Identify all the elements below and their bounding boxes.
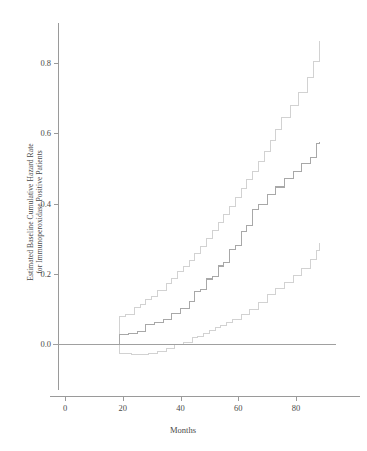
series-upper-confidence-bound <box>120 41 319 344</box>
y-tick-label: 0.8 <box>40 58 51 68</box>
x-tick-label: 0 <box>63 403 67 413</box>
figure-container: 0.00.20.40.60.8 020406080 Months Estimat… <box>0 0 367 451</box>
series-estimated-baseline-cumulative-hazard <box>120 142 319 344</box>
x-tick-label: 40 <box>176 403 185 413</box>
x-tick-label: 80 <box>292 403 301 413</box>
x-axis-ticks: 020406080 <box>63 397 300 414</box>
y-tick-label: 0.6 <box>40 128 51 138</box>
cumulative-hazard-chart: 0.00.20.40.60.8 020406080 Months Estimat… <box>0 0 367 451</box>
y-tick-label: 0.0 <box>40 339 51 349</box>
y-axis-title-line-2: for Immunoperoxidase Positive Patients <box>35 150 44 274</box>
x-tick-label: 20 <box>119 403 128 413</box>
x-axis-title: Months <box>170 425 196 435</box>
chart-series-group <box>53 41 336 354</box>
x-tick-label: 60 <box>234 403 243 413</box>
y-axis-title-line-1: Estimated Baseline Cumulative Hazard Rat… <box>26 143 35 281</box>
